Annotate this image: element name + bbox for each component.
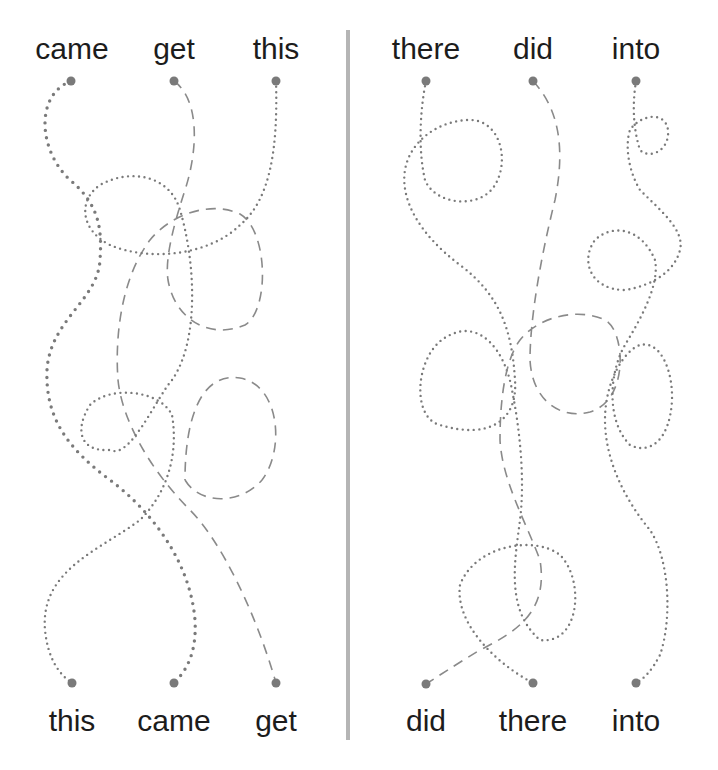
path-this-to-this[interactable] bbox=[45, 81, 277, 683]
endpoint-dot-right-bottom-2[interactable] bbox=[529, 679, 538, 688]
endpoint-dot-left-top-2[interactable] bbox=[170, 77, 179, 86]
endpoint-dot-left-top-3[interactable] bbox=[272, 77, 281, 86]
path-there-to-there[interactable] bbox=[404, 81, 575, 683]
path-get-loop-2 bbox=[185, 377, 276, 498]
path-did-to-did[interactable] bbox=[426, 81, 620, 684]
path-came-to-came[interactable] bbox=[45, 81, 195, 683]
endpoint-dot-left-bottom-1[interactable] bbox=[68, 679, 77, 688]
path-into-to-into[interactable] bbox=[588, 81, 680, 683]
endpoint-dot-right-top-2[interactable] bbox=[529, 77, 538, 86]
endpoint-dot-right-bottom-1[interactable] bbox=[422, 680, 431, 689]
endpoint-dot-right-top-1[interactable] bbox=[422, 77, 431, 86]
endpoint-dot-left-bottom-3[interactable] bbox=[272, 679, 281, 688]
endpoint-dot-left-bottom-2[interactable] bbox=[170, 679, 179, 688]
endpoint-dot-right-top-3[interactable] bbox=[632, 77, 641, 86]
endpoint-dot-left-top-1[interactable] bbox=[67, 77, 76, 86]
word-matching-worksheet: came get this this came get there did in… bbox=[0, 0, 718, 770]
tracing-paths bbox=[0, 0, 718, 770]
endpoint-dot-right-bottom-3[interactable] bbox=[632, 679, 641, 688]
